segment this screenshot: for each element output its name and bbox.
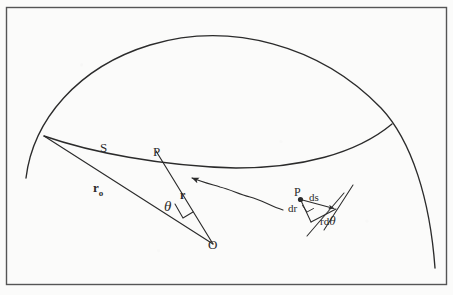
label-r: r	[180, 189, 185, 201]
label-r-zero-subscript: o	[99, 188, 104, 198]
inset-label-rdtheta: rdθ	[320, 214, 336, 227]
label-p: P	[153, 145, 160, 158]
inset-label-ds: ds	[309, 192, 319, 203]
figure-root: S P ro r θ O P ds dr rdθ	[0, 0, 453, 295]
inset-label-rdtheta-prefix: rd	[320, 215, 329, 227]
inner-arc	[44, 124, 392, 168]
inset-label-p: P	[294, 186, 301, 198]
ray-r-zero	[44, 136, 213, 244]
inset-label-rdtheta-theta: θ	[329, 213, 335, 228]
figure-border	[7, 8, 447, 285]
label-theta: θ	[164, 199, 171, 214]
label-o: O	[208, 238, 217, 251]
diagram-canvas	[0, 0, 453, 295]
label-s: S	[100, 141, 107, 154]
wavy-ray	[192, 178, 283, 210]
outer-arc	[26, 36, 435, 268]
inset-label-dr: dr	[288, 203, 297, 214]
label-r-zero: ro	[93, 181, 103, 198]
